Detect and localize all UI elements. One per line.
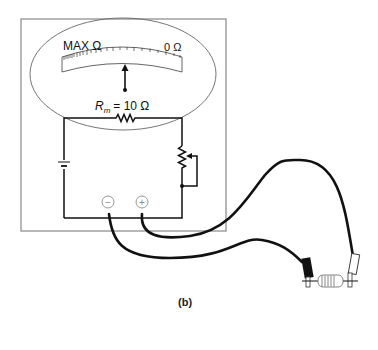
internal-resistance-label: Rm= 10 Ω [95,99,149,115]
terminal-positive[interactable]: + [136,196,148,208]
figure-caption: (b) [178,296,192,308]
positive-symbol: + [139,197,145,208]
resistance-subscript: m [104,106,111,115]
battery [58,160,70,169]
scale-label-zero: 0 Ω [164,41,181,53]
junction-dot [180,184,184,188]
negative-symbol: − [105,197,111,208]
terminal-negative[interactable]: − [102,196,114,208]
scale-label-max: MAX Ω [63,39,101,53]
resistance-value: = 10 Ω [113,99,149,113]
black-probe[interactable] [301,257,313,287]
white-probe[interactable] [348,253,360,287]
pointer-pivot [123,88,127,92]
resistance-symbol: R [95,99,104,113]
